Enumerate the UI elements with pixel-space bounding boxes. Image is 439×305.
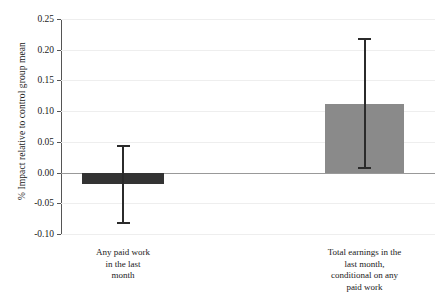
plot-area: 0.250.200.150.100.050.00-0.05-0.10 <box>61 19 435 234</box>
x-tick-label-line: conditional on any <box>290 270 439 282</box>
y-tick-mark <box>57 50 61 51</box>
x-tick-label-line: in the last <box>48 259 198 271</box>
errorbar-stem <box>122 146 124 223</box>
x-tick-label-line: Total earnings in the <box>290 247 439 259</box>
y-tick-label: 0.15 <box>37 75 54 85</box>
x-tick-label: Any paid workin the lastmonth <box>48 247 198 282</box>
y-tick-mark <box>57 234 61 235</box>
gridline <box>61 234 435 235</box>
y-tick-label: -0.05 <box>34 198 54 208</box>
x-tick-label-line: month <box>48 270 198 282</box>
y-tick-mark <box>57 142 61 143</box>
gridline <box>61 80 435 81</box>
gridline <box>61 19 435 20</box>
gridline <box>61 203 435 204</box>
y-tick-label: 0.20 <box>37 45 54 55</box>
errorbar-cap-lower <box>117 222 130 224</box>
x-tick-label-line: paid work <box>290 282 439 294</box>
x-tick-label: Total earnings in thelast month,conditio… <box>290 247 439 293</box>
y-axis-title: % Impact relative to control group mean <box>11 6 33 236</box>
y-tick-label: 0.10 <box>37 106 54 116</box>
bar-chart-figure: % Impact relative to control group mean … <box>0 0 439 305</box>
errorbar-stem <box>364 39 366 167</box>
y-tick-mark <box>57 19 61 20</box>
errorbar-cap-upper <box>117 145 130 147</box>
errorbar-cap-upper <box>358 38 371 40</box>
y-tick-mark <box>57 111 61 112</box>
gridline <box>61 50 435 51</box>
y-tick-label: -0.10 <box>34 229 54 239</box>
y-tick-mark <box>57 203 61 204</box>
x-tick-label-line: last month, <box>290 259 439 271</box>
y-tick-label: 0.25 <box>37 14 54 24</box>
y-tick-mark <box>57 80 61 81</box>
x-tick-label-line: Any paid work <box>48 247 198 259</box>
y-tick-label: 0.00 <box>37 168 54 178</box>
y-axis-spine <box>61 19 62 234</box>
errorbar-cap-lower <box>358 167 371 169</box>
y-tick-label: 0.05 <box>37 137 54 147</box>
